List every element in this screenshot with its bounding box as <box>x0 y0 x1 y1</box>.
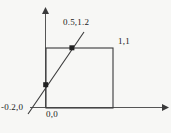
point-label-origin: 0,0 <box>46 109 58 119</box>
unit-square <box>46 48 113 108</box>
point-marker-mid <box>69 45 74 50</box>
diagonal-line <box>28 32 84 114</box>
point-marker-left-edge <box>43 82 48 87</box>
point-label-mid: 0.5,1.2 <box>63 17 89 27</box>
point-label-left: -0.2,0 <box>1 102 23 112</box>
x-axis-arrowhead <box>162 104 169 111</box>
diagram-canvas: 0,0 -0.2,0 0.5,1.2 1,1 <box>0 0 171 133</box>
point-label-corner: 1,1 <box>118 36 130 46</box>
y-axis-arrowhead <box>42 7 49 14</box>
